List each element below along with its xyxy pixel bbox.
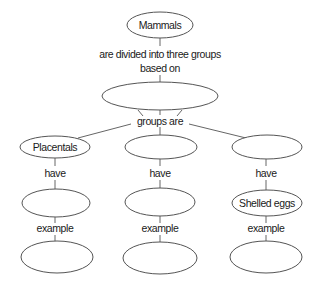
node-group-1[interactable]: Placentals <box>20 136 90 158</box>
node-trait-1-shape <box>22 189 90 217</box>
node-example-1-shape <box>21 241 93 273</box>
link-label-have-2: have <box>149 167 171 179</box>
link-label-have-3: have <box>255 167 277 179</box>
node-group-1-label: Placentals <box>33 141 78 153</box>
node-trait-2-shape <box>125 188 195 216</box>
node-example-2-shape <box>123 242 197 274</box>
link-label-example-3: example <box>248 222 285 234</box>
link-label-divided-line2: based on <box>140 62 181 74</box>
node-criteria[interactable] <box>102 82 218 110</box>
node-example-1[interactable] <box>21 241 93 273</box>
node-group-2[interactable] <box>125 135 197 159</box>
node-trait-1[interactable] <box>22 189 90 217</box>
link-label-have-1: have <box>44 167 66 179</box>
node-criteria-shape <box>102 82 218 110</box>
node-group-3-shape <box>232 135 302 159</box>
node-group-3[interactable] <box>232 135 302 159</box>
node-group-2-shape <box>125 135 197 159</box>
link-label-groups-are: groups are <box>137 115 184 127</box>
link-label-divided-line1: are divided into three groups <box>99 48 221 60</box>
connector-groups-left <box>78 124 131 138</box>
node-trait-3[interactable]: Shelled eggs <box>232 190 302 216</box>
node-mammals-label: Mammals <box>139 19 182 31</box>
node-example-3[interactable] <box>230 241 302 273</box>
concept-map-diagram: Mammals Placentals Shelled eggs <box>0 0 321 290</box>
node-example-2[interactable] <box>123 242 197 274</box>
link-label-example-2: example <box>142 222 179 234</box>
node-trait-2[interactable] <box>125 188 195 216</box>
node-trait-3-label: Shelled eggs <box>239 197 295 209</box>
node-example-3-shape <box>230 241 302 273</box>
link-label-example-1: example <box>37 222 74 234</box>
node-mammals[interactable]: Mammals <box>127 12 193 38</box>
connector-groups-right <box>189 124 246 138</box>
